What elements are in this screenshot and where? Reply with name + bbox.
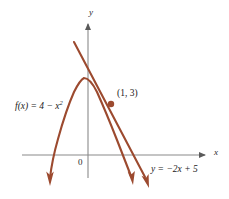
- parabola-right-arrowhead: [128, 171, 135, 185]
- y-axis-label: y: [89, 8, 93, 17]
- tangent-point-marker: [108, 101, 114, 107]
- function-equation-label: f(x) = 4 − x2: [15, 100, 63, 112]
- graph-figure: y x 0 f(x) = 4 − x2 y = −2x + 5 (1, 3): [0, 0, 229, 199]
- function-equation-text: f(x) = 4 − x: [15, 101, 59, 111]
- tangent-line: [74, 42, 145, 177]
- tangent-point-label: (1, 3): [117, 89, 138, 99]
- function-exponent: 2: [59, 99, 62, 106]
- origin-label: 0: [78, 158, 83, 167]
- line-equation-label: y = −2x + 5: [151, 165, 198, 175]
- x-axis-label: x: [214, 148, 218, 157]
